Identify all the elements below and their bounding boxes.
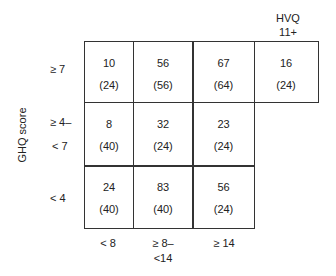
col-label-lt8: < 8 — [78, 236, 138, 251]
cell-r1-c2: 56 (56) — [133, 41, 194, 103]
expected-value: (40) — [134, 203, 193, 215]
observed-value: 83 — [134, 181, 193, 193]
cell-r1-c1: 10 (24) — [84, 41, 134, 103]
expected-value: (24) — [134, 140, 193, 152]
expected-value: (24) — [193, 203, 254, 215]
observed-value: 67 — [193, 57, 254, 69]
cell-r2-c2: 32 (24) — [133, 102, 194, 167]
observed-value: 23 — [193, 118, 254, 130]
expected-value: (40) — [85, 140, 133, 152]
row-label-ge7: ≥ 7 — [50, 63, 65, 75]
expected-value: (56) — [134, 79, 193, 91]
cell-r3-c1: 24 (40) — [84, 165, 134, 229]
col-label-lt14: <14 — [133, 251, 193, 266]
cell-r3-c3: 56 (24) — [192, 165, 255, 229]
expected-value: (24) — [255, 79, 318, 91]
col-label-ge14: ≥ 14 — [194, 236, 254, 251]
expected-value: (40) — [85, 203, 133, 215]
cell-r1-c3: 67 (64) — [192, 41, 255, 103]
col-label-ge8: ≥ 8– — [133, 236, 193, 251]
observed-value: 32 — [134, 118, 193, 130]
ghq-axis-label: GHQ score — [16, 107, 28, 162]
cell-r3-c2: 83 (40) — [133, 165, 194, 229]
row-label-lt4: < 4 — [50, 192, 66, 204]
row-label-lt7: < 7 — [52, 140, 68, 152]
observed-value: 56 — [134, 57, 193, 69]
observed-value: 10 — [85, 57, 133, 69]
hvq-range-label: 11+ — [258, 25, 318, 39]
hvq-column-header: HVQ 11+ — [258, 11, 318, 39]
cell-r2-c3: 23 (24) — [192, 102, 255, 167]
row-label-ge4: ≥ 4– — [50, 116, 71, 128]
observed-value: 16 — [255, 57, 318, 69]
expected-value: (24) — [85, 79, 133, 91]
expected-value: (64) — [193, 79, 254, 91]
col-label-8to14: ≥ 8– <14 — [133, 236, 193, 266]
observed-value: 56 — [193, 181, 254, 193]
observed-value: 24 — [85, 181, 133, 193]
cell-r1-c4: 16 (24) — [254, 41, 319, 103]
observed-value: 8 — [85, 118, 133, 130]
hvq-label: HVQ — [258, 11, 318, 25]
cell-r2-c1: 8 (40) — [84, 102, 134, 167]
expected-value: (24) — [193, 140, 254, 152]
